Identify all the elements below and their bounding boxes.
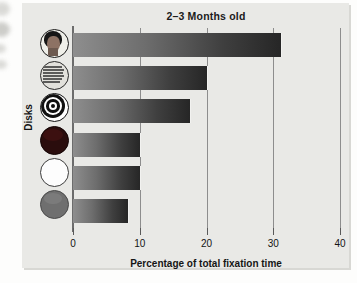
x-axis-tick-label: 40	[325, 238, 355, 249]
x-gridline	[207, 28, 208, 228]
chart-bar	[73, 99, 191, 123]
x-gridline	[140, 28, 141, 228]
scan-artifact-icon	[0, 22, 10, 37]
x-axis-tick	[140, 228, 141, 235]
chart-title: 2–3 Months old	[70, 10, 342, 22]
x-axis-tick	[340, 228, 341, 235]
scan-artifact-icon	[0, 44, 6, 53]
x-gridline	[340, 28, 341, 228]
x-axis-tick	[273, 228, 274, 235]
disk-swatch-white	[40, 158, 69, 187]
chart-bar	[73, 166, 141, 190]
x-axis-tick-label: 0	[58, 238, 88, 249]
chart-bar	[73, 33, 282, 57]
scan-artifact-icon	[0, 2, 10, 16]
disk-swatch-printed-text	[40, 61, 69, 90]
plot-area: 010203040	[73, 28, 340, 228]
face-neck-icon	[48, 48, 58, 56]
disk-swatch-red	[40, 126, 69, 155]
x-axis-tick	[73, 228, 74, 235]
figure-container: 2–3 Months old Disks Percentage of total…	[0, 0, 357, 283]
disk-swatch-bullseye	[40, 93, 69, 122]
disk-swatch-face	[40, 29, 69, 58]
disk-swatch-gray	[40, 190, 69, 219]
x-axis-tick-label: 10	[125, 238, 155, 249]
x-axis-label: Percentage of total fixation time	[70, 258, 342, 269]
x-axis-tick-label: 30	[258, 238, 288, 249]
chart-bar	[73, 133, 141, 157]
y-axis-label: Disks	[23, 88, 34, 148]
x-gridline	[273, 28, 274, 228]
chart-bar	[73, 66, 208, 90]
x-axis-tick	[207, 228, 208, 235]
scan-artifact-icon	[0, 60, 7, 69]
x-axis-tick-label: 20	[192, 238, 222, 249]
chart-bar	[73, 199, 129, 223]
